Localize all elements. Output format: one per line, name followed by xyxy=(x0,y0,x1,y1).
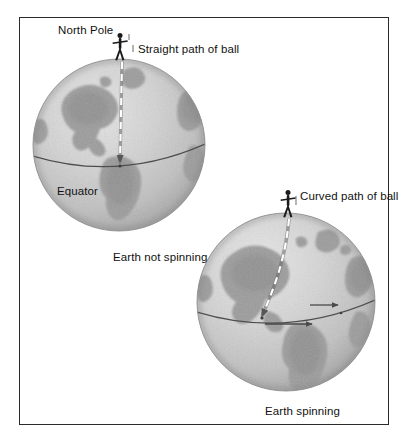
label-curved-path-of-ball: Curved path of ball xyxy=(300,191,398,203)
label-equator: Equator xyxy=(57,186,98,198)
label-straight-path-of-ball: Straight path of ball xyxy=(138,44,239,56)
figure-border xyxy=(19,17,389,425)
caption-earth-spinning: Earth spinning xyxy=(265,406,340,418)
label-north-pole: North Pole xyxy=(58,25,113,37)
figure-coriolis-diagram: North Pole Straight path of ball Equator… xyxy=(0,0,408,442)
caption-earth-not-spinning: Earth not spinning xyxy=(113,252,208,264)
